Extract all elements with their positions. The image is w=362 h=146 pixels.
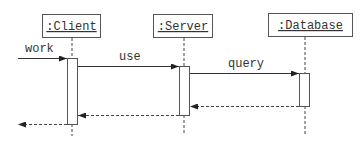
participant-label: :Client <box>46 20 96 34</box>
activation-bar <box>68 59 78 125</box>
message-label: use <box>119 50 141 64</box>
participant-label: :Database <box>278 19 343 33</box>
message-use: use <box>78 50 179 67</box>
message-query: query <box>190 57 299 74</box>
message-label: work <box>25 42 54 56</box>
message-work: work <box>18 42 67 59</box>
participant-label: :Server <box>158 20 208 34</box>
participant-database: :Database <box>269 14 353 136</box>
sequence-diagram: :Client :Server :Database work use query <box>0 0 362 146</box>
message-label: query <box>228 57 264 71</box>
activation-bar <box>180 67 190 116</box>
participant-server: :Server <box>154 15 213 136</box>
participant-client: :Client <box>43 15 101 137</box>
activation-bar <box>300 74 310 107</box>
